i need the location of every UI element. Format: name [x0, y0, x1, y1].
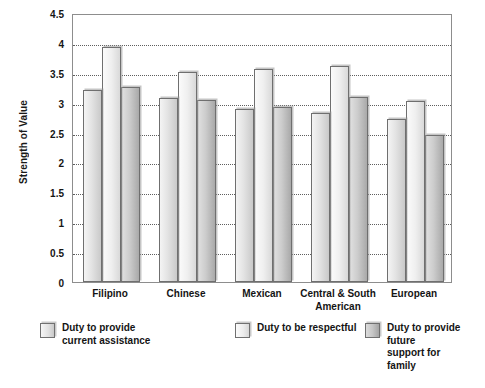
- y-axis-tick-label: 4.5: [50, 9, 64, 20]
- x-axis-category-labels: FilipinoChineseMexicanCentral & SouthAme…: [72, 288, 452, 322]
- legend-label: Duty to provide future support for famil…: [387, 322, 470, 372]
- bar: [83, 90, 102, 282]
- y-axis-title-text: Strength of Value: [18, 100, 29, 184]
- series-1-swatch: [40, 323, 55, 338]
- x-axis-category-label-line: European: [366, 288, 462, 301]
- legend-item: Duty to provide future support for famil…: [365, 322, 470, 372]
- y-axis-tick-label: 1.5: [50, 188, 64, 199]
- bar: [235, 109, 254, 282]
- x-axis-category-label: European: [366, 288, 462, 301]
- bar: [273, 107, 292, 282]
- y-axis-tick-label: 0.5: [50, 248, 64, 259]
- bar-group: [149, 15, 225, 282]
- legend-item: Duty to provide current assistance: [40, 322, 150, 347]
- y-axis-tick-labels: 4.543.532.521.510.50: [34, 14, 68, 283]
- bar-chart-figure: Strength of Value 4.543.532.521.510.50 F…: [0, 0, 485, 388]
- bar: [178, 72, 197, 282]
- series-3-swatch: [365, 323, 380, 338]
- bar: [159, 98, 178, 282]
- y-axis-tick-label: 0: [58, 278, 64, 289]
- y-axis-tick-label: 2: [58, 158, 64, 169]
- y-axis-tick-label: 3.5: [50, 68, 64, 79]
- bar: [387, 119, 406, 282]
- y-axis-tick-label: 2.5: [50, 128, 64, 139]
- y-axis-title: Strength of Value: [12, 0, 34, 283]
- legend-label: Duty to be respectful: [257, 322, 356, 335]
- bar: [330, 66, 349, 282]
- y-axis-tick-label: 3: [58, 98, 64, 109]
- y-axis-tick-label: 1: [58, 218, 64, 229]
- bar-group: [377, 15, 453, 282]
- bar: [425, 135, 444, 282]
- bar-group: [301, 15, 377, 282]
- bar-group: [73, 15, 149, 282]
- series-2-swatch: [235, 323, 250, 338]
- bar: [197, 100, 216, 282]
- bar: [254, 69, 273, 282]
- bar: [102, 47, 121, 282]
- bar-group: [225, 15, 301, 282]
- bar: [406, 101, 425, 282]
- bar: [121, 87, 140, 282]
- bar: [311, 113, 330, 282]
- chart-legend: Duty to provide current assistanceDuty t…: [40, 322, 470, 362]
- plot-area: [72, 14, 452, 283]
- bar: [349, 97, 368, 282]
- bar-series-container: [73, 15, 451, 282]
- legend-label: Duty to provide current assistance: [62, 322, 150, 347]
- legend-item: Duty to be respectful: [235, 322, 356, 338]
- y-axis-tick-label: 4: [58, 38, 64, 49]
- x-axis-category-label-line: American: [290, 301, 386, 314]
